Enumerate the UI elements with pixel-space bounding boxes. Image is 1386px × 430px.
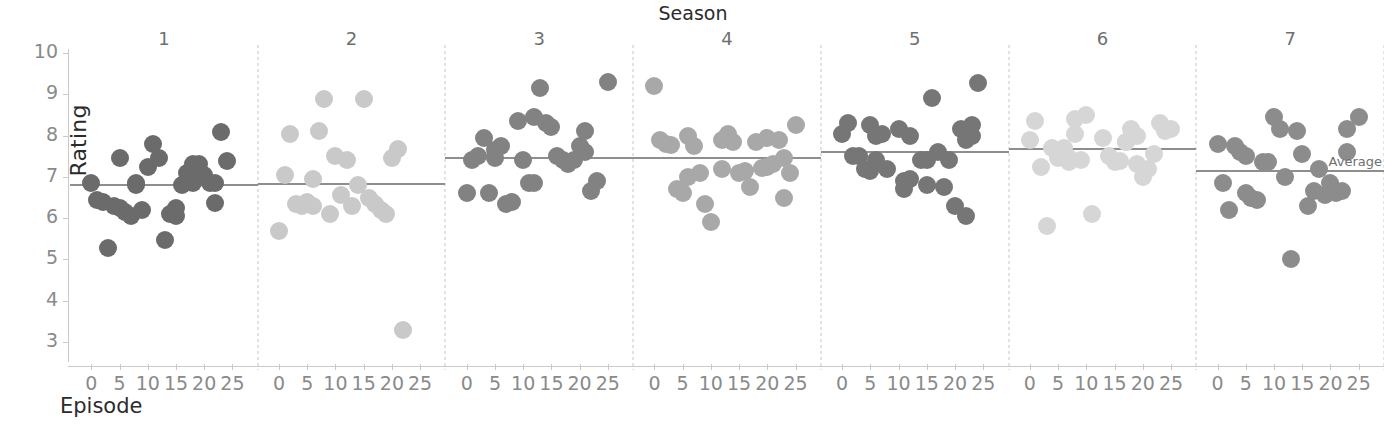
scatter-point[interactable]	[304, 170, 322, 188]
scatter-point[interactable]	[343, 197, 361, 215]
scatter-point[interactable]	[674, 184, 692, 202]
scatter-point[interactable]	[1128, 127, 1146, 145]
scatter-point[interactable]	[724, 133, 742, 151]
scatter-point[interactable]	[206, 194, 224, 212]
scatter-point[interactable]	[781, 164, 799, 182]
scatter-point[interactable]	[1026, 112, 1044, 130]
scatter-point[interactable]	[1271, 120, 1289, 138]
scatter-point[interactable]	[469, 147, 487, 165]
scatter-point[interactable]	[662, 136, 680, 154]
scatter-point[interactable]	[133, 201, 151, 219]
scatter-point[interactable]	[935, 178, 953, 196]
scatter-point[interactable]	[1021, 131, 1039, 149]
scatter-point[interactable]	[304, 197, 322, 215]
scatter-point[interactable]	[218, 152, 236, 170]
scatter-point[interactable]	[458, 184, 476, 202]
scatter-point[interactable]	[741, 178, 759, 196]
scatter-point[interactable]	[1220, 201, 1238, 219]
scatter-point[interactable]	[150, 149, 168, 167]
scatter-point[interactable]	[1333, 182, 1351, 200]
scatter-point[interactable]	[270, 222, 288, 240]
scatter-point[interactable]	[1288, 122, 1306, 140]
x-axis-tick-label: 20	[565, 372, 595, 394]
scatter-point[interactable]	[1094, 129, 1112, 147]
scatter-point[interactable]	[1032, 158, 1050, 176]
scatter-point[interactable]	[355, 90, 373, 108]
scatter-point[interactable]	[206, 174, 224, 192]
scatter-point[interactable]	[873, 125, 891, 143]
scatter-point[interactable]	[645, 77, 663, 95]
scatter-point[interactable]	[1293, 145, 1311, 163]
scatter-point[interactable]	[878, 160, 896, 178]
scatter-point[interactable]	[923, 89, 941, 107]
scatter-point[interactable]	[576, 122, 594, 140]
scatter-point[interactable]	[1083, 205, 1101, 223]
scatter-point[interactable]	[957, 207, 975, 225]
scatter-point[interactable]	[940, 151, 958, 169]
scatter-point[interactable]	[702, 213, 720, 231]
scatter-point[interactable]	[775, 189, 793, 207]
x-axis-tick-mark	[983, 364, 984, 370]
scatter-point[interactable]	[111, 149, 129, 167]
scatter-point[interactable]	[1248, 191, 1266, 209]
scatter-point[interactable]	[1282, 250, 1300, 268]
scatter-point[interactable]	[276, 166, 294, 184]
scatter-point[interactable]	[969, 74, 987, 92]
scatter-point[interactable]	[901, 127, 919, 145]
scatter-point[interactable]	[509, 112, 527, 130]
scatter-point[interactable]	[525, 174, 543, 192]
scatter-point[interactable]	[514, 151, 532, 169]
x-axis-tick-label: 0	[827, 372, 857, 394]
scatter-point[interactable]	[1214, 174, 1232, 192]
scatter-point[interactable]	[99, 239, 117, 257]
scatter-point[interactable]	[918, 176, 936, 194]
scatter-point[interactable]	[82, 174, 100, 192]
scatter-point[interactable]	[338, 151, 356, 169]
scatter-point[interactable]	[1350, 108, 1368, 126]
scatter-point[interactable]	[281, 125, 299, 143]
x-axis-tick-mark	[523, 364, 524, 370]
x-axis-tick-label: 10	[320, 372, 350, 394]
scatter-point[interactable]	[492, 137, 510, 155]
x-axis-tick-mark	[1359, 364, 1360, 370]
scatter-point[interactable]	[389, 140, 407, 158]
scatter-point[interactable]	[1077, 106, 1095, 124]
scatter-point[interactable]	[787, 116, 805, 134]
scatter-point[interactable]	[212, 123, 230, 141]
scatter-point[interactable]	[321, 205, 339, 223]
scatter-point[interactable]	[736, 162, 754, 180]
scatter-point[interactable]	[713, 160, 731, 178]
scatter-point[interactable]	[588, 172, 606, 190]
scatter-point[interactable]	[691, 164, 709, 182]
scatter-point[interactable]	[503, 193, 521, 211]
scatter-point[interactable]	[696, 195, 714, 213]
scatter-point[interactable]	[167, 199, 185, 217]
season-facet: 30510152025	[445, 0, 633, 430]
scatter-point[interactable]	[770, 131, 788, 149]
scatter-point[interactable]	[480, 184, 498, 202]
scatter-point[interactable]	[599, 73, 617, 91]
scatter-point[interactable]	[901, 170, 919, 188]
scatter-point[interactable]	[1072, 151, 1090, 169]
scatter-point[interactable]	[394, 321, 412, 339]
scatter-point[interactable]	[1162, 120, 1180, 138]
x-axis-tick-mark	[1302, 364, 1303, 370]
scatter-point[interactable]	[1276, 168, 1294, 186]
x-axis-tick-label: 15	[1287, 372, 1317, 394]
scatter-point[interactable]	[1038, 217, 1056, 235]
scatter-point[interactable]	[1145, 145, 1163, 163]
scatter-point[interactable]	[1209, 135, 1227, 153]
scatter-point[interactable]	[1237, 147, 1255, 165]
scatter-point[interactable]	[531, 79, 549, 97]
scatter-point[interactable]	[1259, 153, 1277, 171]
scatter-point[interactable]	[315, 90, 333, 108]
scatter-point[interactable]	[542, 118, 560, 136]
scatter-point[interactable]	[1111, 152, 1129, 170]
scatter-point[interactable]	[685, 137, 703, 155]
scatter-point[interactable]	[156, 231, 174, 249]
scatter-point[interactable]	[377, 205, 395, 223]
scatter-point[interactable]	[310, 122, 328, 140]
scatter-point[interactable]	[839, 114, 857, 132]
facet-separator	[1383, 45, 1384, 370]
x-axis-tick-mark	[467, 364, 468, 370]
